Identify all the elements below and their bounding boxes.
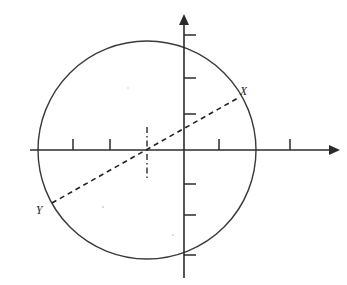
point-label-y: Y <box>36 204 44 216</box>
diagram-svg: X Y <box>0 0 347 285</box>
paper-speck <box>172 234 174 236</box>
horizontal-axis-arrow-icon <box>329 145 340 155</box>
paper-speck <box>102 206 104 208</box>
paper-speck <box>127 87 129 89</box>
figure-canvas: X Y <box>0 0 347 285</box>
vertical-axis-arrow-icon <box>179 14 189 25</box>
point-label-x: X <box>239 85 248 97</box>
